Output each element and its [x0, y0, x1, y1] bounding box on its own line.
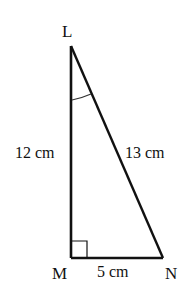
- angle-arc-l: [72, 94, 91, 100]
- side-label-lm: 12 cm: [15, 144, 55, 161]
- vertex-label-m: M: [52, 264, 67, 283]
- triangle-diagram: L M N 12 cm 13 cm 5 cm: [0, 0, 190, 289]
- right-angle-marker: [71, 241, 87, 258]
- vertex-label-l: L: [62, 22, 72, 41]
- vertex-label-n: N: [165, 264, 177, 283]
- side-label-mn: 5 cm: [97, 263, 129, 280]
- side-label-ln: 13 cm: [125, 144, 165, 161]
